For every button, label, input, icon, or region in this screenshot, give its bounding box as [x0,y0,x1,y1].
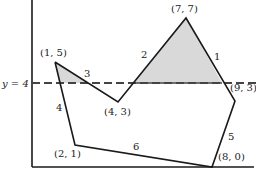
vertex-label-7-7: (7, 7) [171,3,198,14]
clip-line-label: y = 4 [1,78,29,89]
vertex-label-8-0: (8, 0) [218,151,245,162]
vertex-label-2-1: (2, 1) [54,148,81,159]
polygon-clipping-diagram: (1, 5) (4, 3) (7, 7) (9, 3) (8, 0) (2, 1… [0,0,256,177]
edge-number-6: 6 [133,141,139,152]
edge-number-5: 5 [228,131,234,142]
edge-number-2: 2 [141,49,147,60]
vertex-label-4-3: (4, 3) [104,106,131,117]
edge-number-1: 1 [214,51,220,62]
edge-number-4: 4 [56,102,62,113]
polygon-outline [55,18,235,167]
vertex-label-9-3: (9, 3) [230,82,256,93]
edge-number-3: 3 [84,68,90,79]
vertex-label-1-5: (1, 5) [40,47,67,58]
